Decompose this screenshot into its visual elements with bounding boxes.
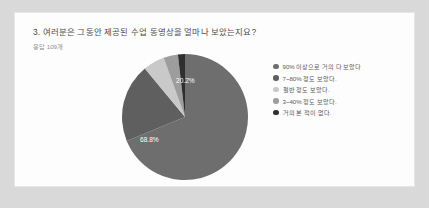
pie-chart-svg (121, 53, 249, 181)
slice-label-second: 20.2% (176, 77, 195, 84)
legend-item: 3~40% 정도 보았다. (273, 96, 413, 107)
pie-slices (122, 54, 248, 180)
pie-chart-area: 68.8% 20.2% 90% 이상으로 거의 다 보았다7~80% 정도 보았… (15, 51, 416, 186)
legend-color-dot-icon (273, 64, 279, 70)
legend-color-dot-icon (273, 98, 279, 104)
legend-item: 90% 이상으로 거의 다 보았다 (273, 61, 413, 72)
legend-item-label: 절반 정도 보았다. (283, 84, 330, 95)
legend-item-label: 90% 이상으로 거의 다 보았다 (283, 61, 362, 72)
response-count: 응답 109개 (33, 42, 63, 51)
legend-color-dot-icon (273, 110, 279, 116)
chart-legend: 90% 이상으로 거의 다 보았다7~80% 정도 보았다.절반 정도 보았다.… (273, 61, 413, 119)
page-title: 3. 여러분은 그동안 제공된 수업 동영상을 얼마나 보았는지요? (33, 25, 256, 37)
legend-item: 7~80% 정도 보았다. (273, 73, 413, 84)
legend-item: 절반 정도 보았다. (273, 84, 413, 95)
legend-item-label: 7~80% 정도 보았다. (283, 73, 337, 84)
legend-item-label: 거의 본 적이 없다. (283, 107, 332, 118)
legend-item-label: 3~40% 정도 보았다. (283, 96, 337, 107)
survey-result-card: 3. 여러분은 그동안 제공된 수업 동영상을 얼마나 보았는지요? 응답 10… (14, 12, 415, 187)
legend-item: 거의 본 적이 없다. (273, 107, 413, 118)
legend-color-dot-icon (273, 75, 279, 81)
pie-chart: 68.8% 20.2% (121, 53, 249, 181)
legend-color-dot-icon (273, 87, 279, 93)
slice-label-major: 68.8% (140, 136, 159, 143)
